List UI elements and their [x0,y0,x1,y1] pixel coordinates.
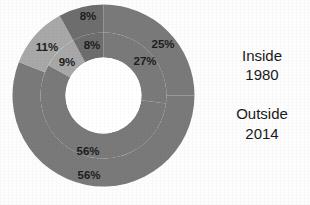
donut-chart: 25% 27% 8% 8% 11% 9% 56% 56% Inside 1980… [0,0,310,205]
donut-rings [12,5,194,187]
inner-label-bottom: 56% [76,145,99,157]
legend-group-outside: Outside 2014 [218,104,306,142]
inner-label-left: 9% [59,56,76,68]
outer-label-top: 8% [80,10,97,22]
outer-label-left: 11% [36,41,58,53]
inner-label-right: 27% [133,55,156,67]
chart-legend: Inside 1980 Outside 2014 [218,46,306,143]
legend-year-label-1980: 1980 [218,65,306,84]
legend-group-inside: Inside 1980 [218,46,306,84]
inner-label-top: 8% [84,39,101,51]
outer-label-bottom: 56% [77,169,100,181]
legend-ring-label-inside: Inside [218,46,306,65]
outer-label-right: 25% [151,38,174,50]
legend-ring-label-outside: Outside [218,104,306,123]
legend-year-label-2014: 2014 [218,124,306,143]
donut-hole [66,58,142,134]
